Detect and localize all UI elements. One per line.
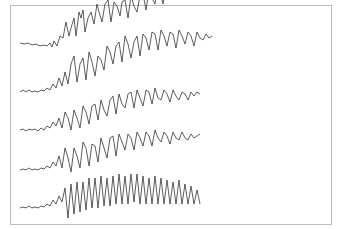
eeg-channel-2 — [20, 30, 212, 92]
eeg-channel-1 — [20, 0, 214, 47]
eeg-channel-5 — [20, 174, 200, 218]
eeg-channel-3 — [20, 88, 200, 131]
eeg-channel-4 — [20, 130, 200, 172]
eeg-traces — [0, 0, 346, 229]
